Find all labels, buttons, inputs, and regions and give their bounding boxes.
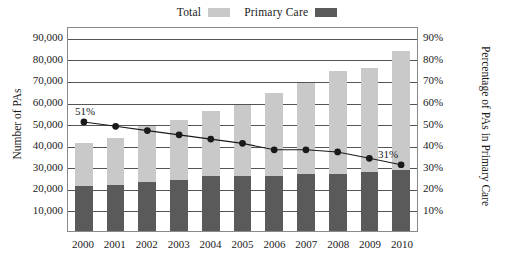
x-axis-tick-label: 2005 bbox=[227, 238, 259, 258]
line-data-point bbox=[207, 136, 214, 143]
y-axis-right-tick-label: 80% bbox=[423, 54, 475, 65]
y-axis-left-tick-label: 40,000 bbox=[1, 140, 63, 151]
y-axis-left-tick-label: 10,000 bbox=[1, 205, 63, 216]
data-label-first-point: 51% bbox=[75, 105, 95, 117]
y-axis-right-tick-label: 90% bbox=[423, 32, 475, 43]
line-data-point bbox=[398, 161, 405, 168]
y-axis-right-tick-label: 60% bbox=[423, 97, 475, 108]
y-axis-left-tick-label: 30,000 bbox=[1, 162, 63, 173]
legend-label-total: Total bbox=[177, 6, 201, 18]
y-axis-right-tick-label: 10% bbox=[423, 205, 475, 216]
y-axis-left-tick-label: 80,000 bbox=[1, 54, 63, 65]
legend-label-primary-care: Primary Care bbox=[244, 6, 308, 18]
legend-item-total: Total bbox=[177, 6, 230, 18]
x-axis-tick-label: 2003 bbox=[163, 238, 195, 258]
y-axis-left-tick-label: 50,000 bbox=[1, 119, 63, 130]
x-axis-tick-label: 2002 bbox=[131, 238, 163, 258]
x-axis-labels: 2000200120022003200420052006200720082009… bbox=[67, 238, 418, 258]
legend-swatch-total bbox=[208, 8, 230, 17]
y-axis-right-tick-label: 50% bbox=[423, 119, 475, 130]
line-data-point bbox=[144, 127, 151, 134]
legend-swatch-primary-care bbox=[315, 8, 337, 17]
x-axis-tick-label: 2006 bbox=[258, 238, 290, 258]
x-axis-tick-label: 2007 bbox=[290, 238, 322, 258]
x-axis-tick-label: 2008 bbox=[322, 238, 354, 258]
data-label-last-point: 31% bbox=[378, 148, 398, 160]
x-axis-tick-label: 2009 bbox=[354, 238, 386, 258]
y-axis-left-tick-label: 20,000 bbox=[1, 183, 63, 194]
line-data-point bbox=[81, 119, 88, 126]
x-axis-tick-label: 2010 bbox=[386, 238, 418, 258]
chart-figure: Total Primary Care Number of PAs Percent… bbox=[0, 0, 514, 262]
x-axis-tick-label: 2004 bbox=[195, 238, 227, 258]
y-axis-right-ticks: 90%80%70%60%50%40%30%20%10% bbox=[423, 0, 475, 262]
plot-area bbox=[67, 27, 418, 232]
y-axis-left-ticks: 90,00080,00070,00060,00050,00040,00030,0… bbox=[0, 0, 63, 262]
y-axis-right-tick-label: 20% bbox=[423, 183, 475, 194]
x-axis-tick-label: 2001 bbox=[99, 238, 131, 258]
y-axis-right-tick-label: 30% bbox=[423, 162, 475, 173]
y-axis-left-tick-label: 90,000 bbox=[1, 32, 63, 43]
line-data-point bbox=[366, 155, 373, 162]
line-series-overlay bbox=[68, 28, 417, 231]
line-data-point bbox=[176, 131, 183, 138]
line-data-point bbox=[271, 146, 278, 153]
line-data-point bbox=[112, 123, 119, 130]
line-data-point bbox=[239, 140, 246, 147]
y-axis-right-tick-label: 70% bbox=[423, 75, 475, 86]
y-axis-left-tick-label: 70,000 bbox=[1, 75, 63, 86]
legend-item-primary-care: Primary Care bbox=[244, 6, 337, 18]
line-data-point bbox=[334, 149, 341, 156]
y-axis-right-tick-label: 40% bbox=[423, 140, 475, 151]
y-axis-right-title: Percentage of PAs in Primary Care bbox=[480, 24, 492, 229]
line-data-point bbox=[303, 146, 310, 153]
y-axis-left-tick-label: 60,000 bbox=[1, 97, 63, 108]
x-axis-tick-label: 2000 bbox=[67, 238, 99, 258]
